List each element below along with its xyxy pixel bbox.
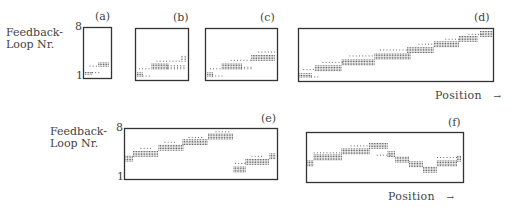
panel-e — [125, 129, 278, 180]
panel-frame — [307, 133, 464, 183]
panel-c — [206, 29, 278, 81]
panel-f — [307, 133, 464, 183]
panel-frame — [206, 29, 278, 81]
panel-d — [299, 29, 494, 82]
panel-frame — [84, 28, 112, 79]
panel-frame — [136, 29, 189, 81]
panel-a — [84, 28, 112, 79]
pattern-plots — [0, 0, 512, 207]
panel-b — [136, 29, 189, 81]
panel-frame — [125, 129, 278, 180]
